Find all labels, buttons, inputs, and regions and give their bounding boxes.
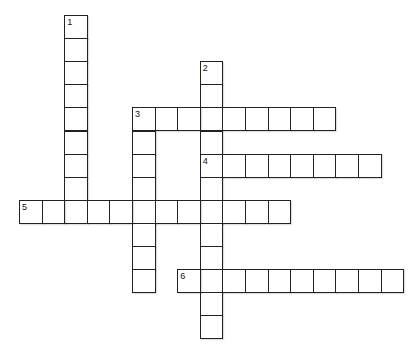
crossword-cell[interactable]	[358, 154, 382, 178]
clue-number: 5	[22, 202, 27, 212]
crossword-cell[interactable]: 5	[19, 200, 43, 224]
crossword-cell[interactable]	[132, 200, 156, 224]
crossword-cell[interactable]	[290, 107, 314, 131]
crossword-cell[interactable]	[245, 154, 269, 178]
crossword-cell[interactable]	[313, 154, 337, 178]
crossword-cell[interactable]	[132, 177, 156, 201]
clue-number: 1	[67, 17, 72, 27]
crossword-cell[interactable]	[222, 200, 246, 224]
crossword-cell[interactable]: 3	[132, 107, 156, 131]
crossword-cell[interactable]	[313, 269, 337, 293]
crossword-cell[interactable]	[200, 200, 224, 224]
crossword-cell[interactable]	[64, 38, 88, 62]
crossword-cell[interactable]	[381, 269, 405, 293]
clue-number: 6	[180, 271, 185, 281]
crossword-cell[interactable]	[268, 200, 292, 224]
crossword-grid: 124356	[0, 0, 418, 357]
crossword-cell[interactable]	[200, 177, 224, 201]
crossword-cell[interactable]	[64, 200, 88, 224]
crossword-cell[interactable]	[290, 269, 314, 293]
crossword-cell[interactable]	[64, 107, 88, 131]
crossword-cell[interactable]: 4	[200, 154, 224, 178]
crossword-cell[interactable]	[335, 269, 359, 293]
crossword-cell[interactable]	[268, 107, 292, 131]
crossword-cell[interactable]	[132, 131, 156, 155]
crossword-cell[interactable]: 2	[200, 61, 224, 85]
crossword-cell[interactable]	[222, 269, 246, 293]
crossword-cell[interactable]	[64, 177, 88, 201]
crossword-cell[interactable]	[155, 200, 179, 224]
crossword-cell[interactable]	[245, 269, 269, 293]
crossword-cell[interactable]: 1	[64, 15, 88, 39]
crossword-cell[interactable]	[313, 107, 337, 131]
crossword-cell[interactable]	[64, 84, 88, 108]
crossword-cell[interactable]	[87, 200, 111, 224]
crossword-cell[interactable]	[290, 154, 314, 178]
crossword-cell[interactable]	[200, 131, 224, 155]
crossword-cell[interactable]	[200, 107, 224, 131]
crossword-cell[interactable]	[132, 223, 156, 247]
crossword-cell[interactable]	[200, 246, 224, 270]
crossword-cell[interactable]	[132, 154, 156, 178]
clue-number: 2	[203, 63, 208, 73]
crossword-cell[interactable]	[64, 154, 88, 178]
crossword-cell[interactable]	[268, 154, 292, 178]
crossword-cell[interactable]: 6	[177, 269, 201, 293]
crossword-cell[interactable]	[200, 84, 224, 108]
clue-number: 3	[135, 109, 140, 119]
crossword-cell[interactable]	[132, 269, 156, 293]
crossword-cell[interactable]	[42, 200, 66, 224]
crossword-cell[interactable]	[177, 107, 201, 131]
crossword-cell[interactable]	[222, 107, 246, 131]
crossword-cell[interactable]	[64, 61, 88, 85]
crossword-cell[interactable]	[132, 246, 156, 270]
crossword-cell[interactable]	[358, 269, 382, 293]
crossword-cell[interactable]	[245, 200, 269, 224]
crossword-cell[interactable]	[335, 154, 359, 178]
crossword-cell[interactable]	[200, 292, 224, 316]
crossword-cell[interactable]	[268, 269, 292, 293]
crossword-cell[interactable]	[155, 107, 179, 131]
crossword-cell[interactable]	[200, 223, 224, 247]
crossword-cell[interactable]	[64, 131, 88, 155]
crossword-cell[interactable]	[109, 200, 133, 224]
crossword-cell[interactable]	[245, 107, 269, 131]
crossword-cell[interactable]	[177, 200, 201, 224]
clue-number: 4	[203, 156, 208, 166]
crossword-cell[interactable]	[222, 154, 246, 178]
crossword-cell[interactable]	[200, 315, 224, 339]
crossword-cell[interactable]	[200, 269, 224, 293]
